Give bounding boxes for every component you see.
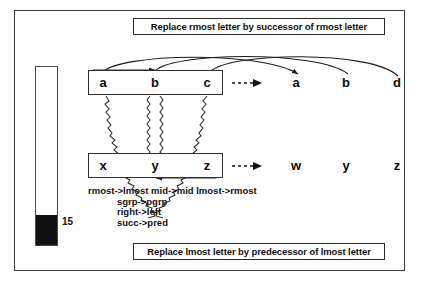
gauge-fill-bar xyxy=(36,215,57,245)
result-top-letter-1: b xyxy=(338,76,354,89)
target-letter-0: x xyxy=(95,159,111,172)
result-bottom-letter-0: w xyxy=(288,159,304,172)
source-letter-0: a xyxy=(95,76,111,89)
banner-predecessor-rule: Replace lmost letter by predecessor of l… xyxy=(133,243,385,260)
result-top-letter-0: a xyxy=(288,76,304,89)
result-top-letter-2: d xyxy=(389,76,405,89)
gauge-value-label: 15 xyxy=(62,216,73,227)
rule-line-4: succ->pred xyxy=(117,218,257,229)
activation-gauge[interactable] xyxy=(35,66,58,246)
figure-canvas: Replace rmost letter by successor of rmo… xyxy=(0,0,430,286)
rule-line-1: rmost->lmost mid->mid lmost->rmost xyxy=(88,186,257,197)
target-letter-1: y xyxy=(147,159,163,172)
rule-mapping-text: rmost->lmost mid->mid lmost->rmost sgrp-… xyxy=(88,186,257,228)
rule-line-3: right->left xyxy=(117,207,257,218)
source-letter-1: b xyxy=(147,76,163,89)
source-letter-2: c xyxy=(199,76,215,89)
figure-outer-frame xyxy=(14,10,405,271)
result-bottom-letter-2: z xyxy=(389,159,405,172)
result-bottom-letter-1: y xyxy=(338,159,354,172)
target-letter-2: z xyxy=(199,159,215,172)
banner-successor-rule: Replace rmost letter by successor of rmo… xyxy=(133,18,385,35)
